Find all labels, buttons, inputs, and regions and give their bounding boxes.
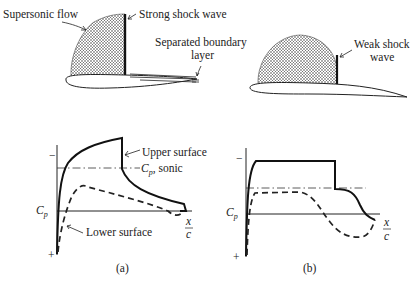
label-cp-sonic: Cp, sonic	[141, 162, 183, 177]
supersonic-region-b	[258, 35, 337, 84]
x-label-b: x	[383, 216, 390, 228]
label-upper-surface: Upper surface	[142, 146, 207, 159]
cp-plot-b: − + Cp x c (b)	[226, 148, 391, 275]
airfoil-a: Supersonic flow Strong shock wave Separa…	[3, 8, 247, 88]
lower-surface-curve-b	[247, 192, 375, 255]
label-separated-1: Separated boundary	[155, 36, 247, 49]
x-label-a: x	[185, 215, 192, 227]
minus-label-a: −	[49, 149, 56, 161]
cp-axis-label-a: Cp	[36, 204, 48, 219]
airfoil-b: Weak shock wave	[250, 35, 410, 97]
cp-axis-label-b: Cp	[226, 206, 238, 221]
label-lower-surface: Lower surface	[86, 226, 152, 238]
c-label-b: c	[384, 230, 389, 242]
minus-label-b: −	[236, 152, 243, 164]
plus-label-b: +	[233, 251, 240, 263]
plus-label-a: +	[48, 249, 55, 261]
lower-surface-curve-a	[58, 186, 184, 252]
cp-plot-a: − + Cp Upper surface Cp, sonic Lower sur…	[36, 138, 207, 275]
label-strong-shock: Strong shock wave	[139, 8, 227, 21]
label-supersonic-flow: Supersonic flow	[3, 8, 79, 21]
label-weak-shock-2: wave	[370, 51, 394, 63]
label-weak-shock-1: Weak shock	[354, 38, 410, 50]
c-label-a: c	[186, 228, 191, 240]
transonic-airfoil-diagram: Supersonic flow Strong shock wave Separa…	[0, 0, 411, 282]
caption-b: (b)	[303, 262, 317, 275]
supersonic-region-a	[71, 14, 125, 76]
arrow-supersonic	[62, 22, 86, 30]
airfoil-shape-b	[250, 83, 407, 97]
caption-a: (a)	[116, 262, 129, 275]
upper-surface-curve-b	[246, 161, 375, 256]
label-separated-2: layer	[191, 49, 214, 62]
